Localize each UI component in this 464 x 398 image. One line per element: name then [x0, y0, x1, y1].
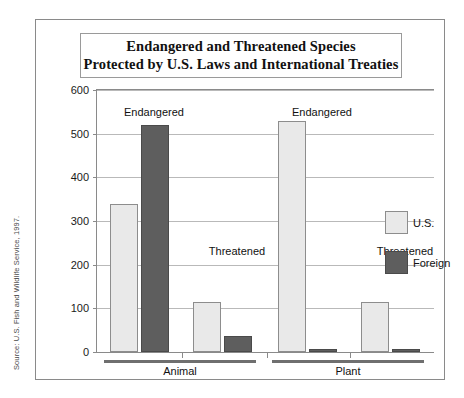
- chart-title-line-2: Protected by U.S. Laws and International…: [84, 56, 399, 74]
- y-axis-tick-mark: [93, 134, 97, 135]
- bar-animal-threatened-foreign: [224, 336, 252, 352]
- category-tick: [267, 353, 268, 358]
- annotation-endangered-2: Endangered: [292, 106, 352, 118]
- group-label-animal: Animal: [163, 365, 197, 377]
- group-label-plant: Plant: [335, 365, 360, 377]
- category-tick: [350, 353, 351, 358]
- bar-plant-threatened-foreign: [392, 349, 420, 352]
- legend-label-foreign: Foreign: [413, 257, 450, 269]
- category-tick: [182, 353, 183, 358]
- y-axis-tick-mark: [93, 177, 97, 178]
- gridline: [97, 90, 434, 91]
- chart-legend: U.S. Foreign: [385, 211, 464, 291]
- y-axis-tick-label: 300: [49, 215, 89, 227]
- group-rule-animal: [104, 360, 256, 363]
- chart-title-box: Endangered and Threatened Species Protec…: [80, 33, 402, 78]
- annotation-endangered-0: Endangered: [124, 106, 184, 118]
- legend-label-us: U.S.: [413, 217, 434, 229]
- y-axis-tick-mark: [93, 308, 97, 309]
- y-axis-tick-label: 100: [49, 302, 89, 314]
- y-axis-tick-label: 200: [49, 259, 89, 271]
- y-axis-tick-label: 500: [49, 128, 89, 140]
- bar-animal-threatened-us: [193, 302, 221, 352]
- group-rule-plant: [272, 360, 424, 363]
- bar-plant-threatened-us: [361, 302, 389, 352]
- y-axis-tick-label: 0: [49, 346, 89, 358]
- annotation-threatened-1: Threatened: [209, 245, 265, 257]
- bar-plant-endangered-us: [278, 121, 306, 352]
- chart-title-line-1: Endangered and Threatened Species: [126, 38, 355, 56]
- y-axis-tick-mark: [93, 221, 97, 222]
- legend-item-foreign[interactable]: Foreign: [385, 251, 464, 274]
- y-axis-tick-mark: [93, 90, 97, 91]
- plot-area: 0100200300400500600 EndangeredThreatened…: [96, 89, 434, 352]
- plot-wrapper: Endangered and Threatened Species Protec…: [36, 20, 446, 381]
- figure-frame: Endangered and Threatened Species Protec…: [35, 19, 445, 380]
- y-axis-tick-label: 600: [49, 84, 89, 96]
- source-note: Source: U.S. Fish and Wildlife Service, …: [12, 200, 21, 370]
- bar-plant-endangered-foreign: [309, 349, 337, 352]
- legend-swatch-us-icon: [385, 211, 408, 234]
- y-axis-tick-mark: [93, 265, 97, 266]
- legend-swatch-foreign-icon: [385, 251, 408, 274]
- y-axis-tick-label: 400: [49, 171, 89, 183]
- x-axis-baseline: [97, 352, 434, 353]
- bar-animal-endangered-us: [110, 204, 138, 352]
- bar-animal-endangered-foreign: [141, 125, 169, 352]
- legend-item-us[interactable]: U.S.: [385, 211, 464, 234]
